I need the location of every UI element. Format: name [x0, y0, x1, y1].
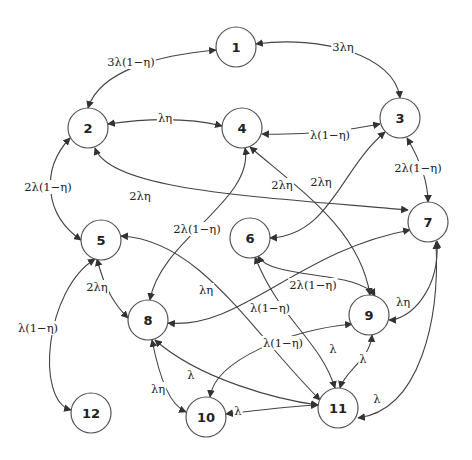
edge-label-4-9: 2λη — [271, 178, 293, 192]
nodes-layer: 123456789101112 — [68, 27, 448, 437]
node-label: 1 — [231, 40, 240, 55]
edge-label-5-12: λ(1−η) — [18, 321, 58, 335]
node-label: 10 — [197, 410, 215, 425]
state-node-3: 3 — [380, 98, 420, 138]
edge-label-8-11: λ — [187, 368, 194, 382]
edge-1-3 — [256, 42, 400, 98]
node-label: 9 — [364, 308, 373, 323]
edge-label-1-2: 3λ(1−η) — [107, 55, 154, 69]
edge-label-9-11: λ — [359, 352, 366, 366]
edge-label-8-10: λη — [151, 382, 165, 396]
state-node-9: 9 — [349, 295, 389, 335]
edge-label-7-8: λ(1−η) — [250, 301, 290, 315]
edge-label-10-11: λ — [234, 404, 241, 418]
node-label: 4 — [237, 121, 246, 136]
state-node-12: 12 — [71, 393, 111, 433]
edge-label-2-4: λη — [158, 111, 172, 125]
state-node-1: 1 — [216, 27, 256, 67]
edge-9-10 — [210, 324, 352, 397]
node-label: 6 — [245, 231, 254, 246]
edge-label-6-9: 2λ(1−η) — [289, 278, 336, 292]
node-label: 7 — [423, 215, 432, 230]
edge-label-3-4: λ(1−η) — [310, 128, 350, 142]
state-node-6: 6 — [230, 218, 270, 258]
node-label: 5 — [96, 233, 105, 248]
edge-label-4-8: 2λ(1−η) — [173, 222, 220, 236]
edge-label-2-5: 2λ(1−η) — [24, 180, 71, 194]
node-label: 3 — [395, 111, 404, 126]
edge-label-6-11: λ — [329, 342, 336, 356]
node-label: 8 — [143, 313, 152, 328]
edge-label-7-9: λη — [396, 295, 410, 309]
edge-label-3-7: 2λ(1−η) — [394, 161, 441, 175]
state-node-7: 7 — [408, 202, 448, 242]
edge-4-9 — [250, 147, 370, 295]
state-node-5: 5 — [81, 220, 121, 260]
node-label: 11 — [329, 401, 347, 416]
edge-label-7-11: λ — [373, 392, 380, 406]
edge-labels-layer: 3λ(1−η)3ληλη2λ(1−η)2ληλ(1−η)2λη2λ(1−η)2λ… — [17, 40, 443, 418]
edge-label-2-7: 2λη — [129, 189, 151, 203]
state-node-2: 2 — [68, 108, 108, 148]
edge-label-5-11: λη — [199, 283, 213, 297]
state-node-11: 11 — [318, 388, 358, 428]
node-label: 2 — [83, 121, 92, 136]
state-node-4: 4 — [222, 108, 262, 148]
state-node-10: 10 — [186, 397, 226, 437]
edge-label-5-8: 2λη — [86, 280, 108, 294]
state-transition-diagram: 3λ(1−η)3ληλη2λ(1−η)2ληλ(1−η)2λη2λ(1−η)2λ… — [0, 0, 472, 460]
state-node-8: 8 — [128, 300, 168, 340]
edge-label-3-6: 2λη — [310, 175, 332, 189]
edge-label-1-3: 3λη — [332, 40, 354, 54]
edge-label-9-10: λ(1−η) — [263, 336, 303, 350]
node-label: 12 — [82, 406, 100, 421]
